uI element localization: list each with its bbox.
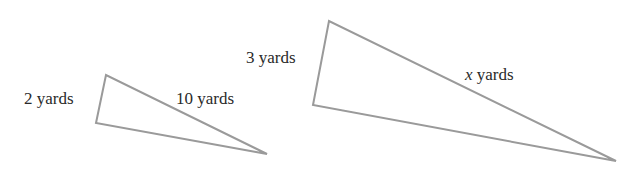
small-triangle bbox=[96, 75, 267, 154]
small-side-label: 2 yards bbox=[24, 90, 74, 107]
triangles-canvas bbox=[0, 0, 636, 169]
large-triangle bbox=[313, 21, 616, 161]
similar-triangles-diagram: 2 yards 10 yards 3 yards x yards bbox=[0, 0, 636, 169]
large-hypotenuse-label: x yards bbox=[465, 66, 514, 83]
small-hypotenuse-label: 10 yards bbox=[176, 90, 234, 107]
unit-yards: yards bbox=[473, 65, 514, 84]
large-side-label: 3 yards bbox=[246, 49, 296, 66]
variable-x: x bbox=[465, 65, 473, 84]
